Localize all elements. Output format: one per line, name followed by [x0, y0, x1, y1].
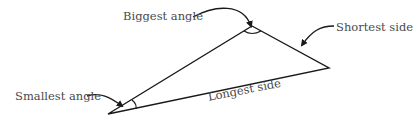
- biggest-angle-arc: [244, 31, 261, 34]
- diagram-canvas: [0, 0, 413, 122]
- smallest-angle-label: Smallest angle: [15, 91, 101, 103]
- shortest-side-label: Shortest side: [336, 22, 413, 34]
- shortest-side-arrow: [302, 26, 334, 45]
- triangle-diagram: Biggest angle Shortest side Smallest ang…: [0, 0, 413, 122]
- biggest-angle-label: Biggest angle: [123, 11, 203, 23]
